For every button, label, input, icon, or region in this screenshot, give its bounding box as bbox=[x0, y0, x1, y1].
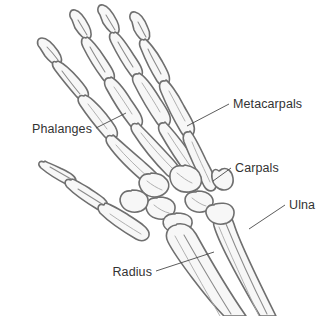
label-carpals: Carpals bbox=[235, 161, 279, 175]
bone-ulna-head bbox=[206, 203, 234, 224]
label-phalanges: Phalanges bbox=[32, 122, 92, 136]
bone-carpal-hamate bbox=[170, 165, 202, 192]
hand-skeleton-illustration: Metacarpals Phalanges Carpals Ulna Radiu… bbox=[0, 0, 326, 316]
label-ulna: Ulna bbox=[289, 198, 315, 212]
bone-carpal-trapezoid bbox=[120, 190, 148, 212]
label-metacarpals: Metacarpals bbox=[233, 97, 302, 111]
label-radius: Radius bbox=[112, 265, 152, 279]
anatomy-figure-hand-bones: Metacarpals Phalanges Carpals Ulna Radiu… bbox=[0, 0, 326, 316]
